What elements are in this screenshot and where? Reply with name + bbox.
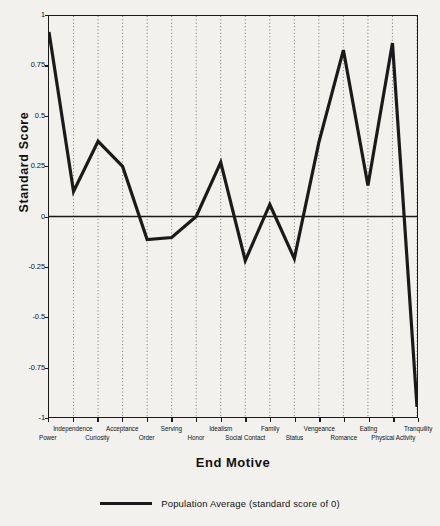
- x-tick-label: Acceptance: [106, 425, 138, 432]
- x-tick-label: Physical Activity: [371, 434, 415, 441]
- x-axis-title: End Motive: [48, 455, 418, 470]
- y-tick-label: -1: [5, 413, 45, 422]
- x-tick-label: Social Contact: [225, 434, 265, 441]
- x-tick-label: Idealism: [209, 425, 232, 432]
- data-series-line: [49, 32, 417, 407]
- x-tick-label: Independence: [53, 425, 92, 432]
- y-tick-label: 0.75: [5, 60, 45, 69]
- x-tick-label: Power: [39, 434, 57, 441]
- x-tick-mark: [418, 418, 419, 422]
- y-tick-label: -0.75: [5, 363, 45, 372]
- legend-line-swatch: [100, 502, 152, 504]
- y-tick-label: 0.5: [5, 111, 45, 120]
- x-tick-mark: [369, 418, 370, 422]
- x-tick-label: Vengeance: [304, 425, 335, 432]
- x-tick-mark: [171, 418, 172, 422]
- x-tick-label: Serving: [161, 425, 182, 432]
- x-tick-mark: [48, 418, 49, 422]
- chart-legend: Population Average (standard score of 0): [0, 498, 440, 509]
- x-tick-mark: [319, 418, 320, 422]
- plot-area: [48, 15, 418, 418]
- x-tick-label: Order: [139, 434, 155, 441]
- x-tick-mark: [97, 418, 98, 422]
- x-tick-mark: [393, 418, 394, 422]
- x-tick-mark: [122, 418, 123, 422]
- line-chart-svg: [49, 16, 417, 417]
- y-axis-tick-group: 10.750.50.250-0.25-0.5-0.75-1: [0, 0, 45, 526]
- chart-figure: Standard Score 10.750.50.250-0.25-0.5-0.…: [0, 0, 440, 526]
- x-tick-label: Romance: [331, 434, 358, 441]
- x-tick-label: Tranquility: [404, 425, 432, 432]
- y-tick-label: 0.25: [5, 161, 45, 170]
- x-tick-mark: [344, 418, 345, 422]
- x-tick-mark: [295, 418, 296, 422]
- y-tick-label: 1: [5, 10, 45, 19]
- x-tick-mark: [147, 418, 148, 422]
- x-tick-mark: [270, 418, 271, 422]
- x-tick-label: Status: [286, 434, 304, 441]
- y-tick-label: -0.25: [5, 262, 45, 271]
- x-tick-mark: [221, 418, 222, 422]
- legend-label: Population Average (standard score of 0): [161, 498, 340, 509]
- x-tick-mark: [196, 418, 197, 422]
- x-tick-mark: [245, 418, 246, 422]
- x-tick-label: Curiosity: [85, 434, 109, 441]
- y-tick-label: -0.5: [5, 312, 45, 321]
- x-tick-label: Eating: [360, 425, 378, 432]
- x-tick-label: Family: [261, 425, 279, 432]
- x-tick-mark: [73, 418, 74, 422]
- y-tick-label: 0: [5, 212, 45, 221]
- x-tick-label: Honor: [188, 434, 205, 441]
